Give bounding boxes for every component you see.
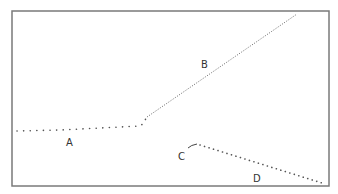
label-d: D — [253, 173, 261, 184]
curve-a — [17, 118, 146, 131]
label-b: B — [201, 59, 208, 70]
line-diagram: A B C D — [0, 0, 338, 194]
label-a: A — [66, 137, 73, 148]
curve-c — [188, 144, 197, 148]
diagram-frame — [12, 11, 329, 186]
label-c: C — [178, 151, 185, 162]
curve-b — [147, 14, 297, 117]
curve-d — [200, 145, 322, 183]
